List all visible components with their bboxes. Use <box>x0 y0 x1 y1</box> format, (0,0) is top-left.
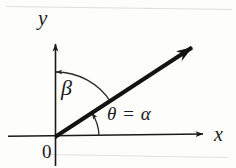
x-axis-line <box>8 134 203 136</box>
scan-line-bottom <box>46 155 228 158</box>
theta-equals-alpha-label: θ = α <box>107 104 151 123</box>
x-axis-label: x <box>214 124 223 144</box>
y-axis-label: y <box>38 8 47 29</box>
theta-arc <box>92 113 99 136</box>
beta-angle-label: β <box>61 77 72 99</box>
origin-label: 0 <box>42 142 52 161</box>
angle-diagram-figure: y x 0 β θ = α <box>0 0 236 168</box>
diagram-canvas <box>0 0 236 168</box>
